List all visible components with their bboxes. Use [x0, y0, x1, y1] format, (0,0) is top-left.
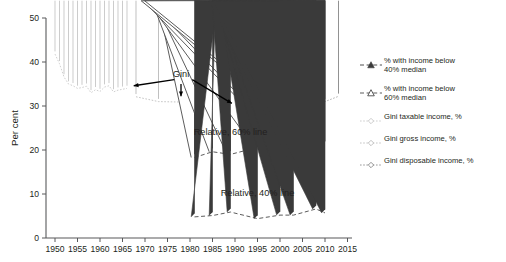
legend-item[interactable]: Gini taxable income, %	[358, 112, 504, 125]
x-tick-label: 2000	[270, 244, 289, 254]
legend-item[interactable]: Gini gross income, %	[358, 134, 504, 147]
legend-item-label: % with income below 60% median	[384, 84, 455, 103]
chart-legend: % with income below 40% median% with inc…	[358, 56, 504, 178]
data-point-diamond	[368, 162, 373, 167]
annotation-relative-40-label: Relative, 40% line	[221, 188, 295, 198]
legend-item-label: Gini gross income, %	[384, 134, 456, 143]
data-point-diamond	[368, 140, 373, 145]
x-tick-label: 1985	[203, 244, 222, 254]
data-point-diamond	[368, 118, 373, 123]
annotation-arrow-taxable	[134, 80, 175, 86]
legend-marker-open-diamond-icon	[358, 157, 384, 169]
x-tick-label: 1960	[90, 244, 109, 254]
legend-item-label: % with income below 40% median	[384, 56, 455, 75]
x-tick-label: 1965	[113, 244, 132, 254]
legend-marker-open-triangle-icon	[358, 85, 384, 97]
series-line	[195, 209, 326, 219]
x-tick-label: 1995	[248, 244, 267, 254]
y-tick-label: 0	[34, 233, 39, 243]
legend-item-label: Gini taxable income, %	[384, 112, 462, 121]
legend-marker-open-diamond-icon	[358, 135, 384, 147]
y-tick-label: 50	[29, 13, 39, 23]
legend-item[interactable]: Gini disposable income, %	[358, 156, 504, 169]
x-tick-label: 1955	[68, 244, 87, 254]
legend-marker-open-diamond-icon	[358, 113, 384, 125]
chart-figure: 0102030405019501955196019651970197519801…	[0, 0, 506, 262]
x-tick-label: 1980	[180, 244, 199, 254]
annotation-relative-60-label: Relative, 60% line	[194, 127, 268, 137]
x-tick-label: 2005	[293, 244, 312, 254]
y-axis-title: Per cent	[9, 110, 20, 146]
legend-item-label: Gini disposable income, %	[384, 156, 473, 165]
x-tick-label: 2015	[338, 244, 357, 254]
y-tick-label: 30	[29, 101, 39, 111]
x-tick-label: 1950	[45, 244, 64, 254]
x-tick-label: 1990	[225, 244, 244, 254]
series-gini-taxable-income	[55, 1, 127, 93]
x-tick-label: 1970	[135, 244, 154, 254]
y-tick-label: 40	[29, 57, 39, 67]
legend-item[interactable]: % with income below 60% median	[358, 84, 504, 103]
x-tick-label: 1975	[158, 244, 177, 254]
legend-item[interactable]: % with income below 40% median	[358, 56, 504, 75]
x-tick-label: 2010	[315, 244, 334, 254]
legend-marker-filled-triangle-icon	[358, 57, 384, 69]
y-tick-label: 20	[29, 145, 39, 155]
y-tick-label: 10	[29, 189, 39, 199]
annotation-gini-label: Gini	[173, 69, 189, 79]
